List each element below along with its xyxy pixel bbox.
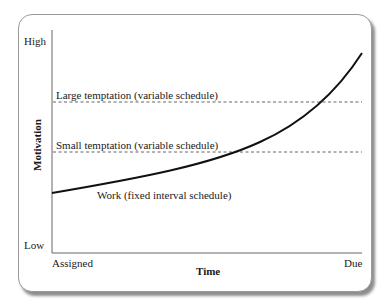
work-annotation: Work (fixed interval schedule) bbox=[97, 190, 231, 201]
x-tick-assigned: Assigned bbox=[52, 258, 93, 269]
small-temptation-annotation: Small temptation (variable schedule) bbox=[56, 140, 218, 151]
y-axis-label: Motivation bbox=[32, 119, 43, 171]
y-tick-low: Low bbox=[24, 240, 44, 251]
work-curve bbox=[52, 53, 362, 193]
y-tick-high: High bbox=[24, 36, 46, 47]
large-temptation-annotation: Large temptation (variable schedule) bbox=[56, 90, 218, 101]
x-tick-due: Due bbox=[344, 258, 362, 269]
x-axis-label: Time bbox=[196, 266, 220, 277]
